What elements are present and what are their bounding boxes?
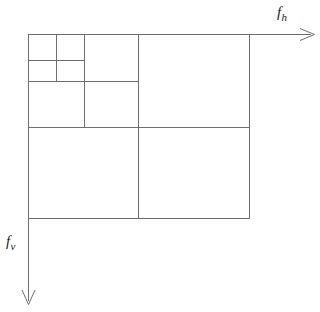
level1-split-lines: [28, 34, 250, 219]
horizontal-axis-label: fh: [277, 5, 287, 23]
vertical-axis-label: fv: [6, 234, 15, 252]
level2-split-lines: [28, 34, 139, 128]
vertical-axis-label-subscript: v: [10, 240, 15, 252]
level3-split-lines: [28, 34, 85, 82]
subband-decomposition-diagram: [0, 0, 320, 312]
horizontal-axis-label-subscript: h: [281, 11, 287, 23]
diagram-canvas: fh fv: [0, 0, 320, 312]
axis-group: [22, 29, 315, 305]
